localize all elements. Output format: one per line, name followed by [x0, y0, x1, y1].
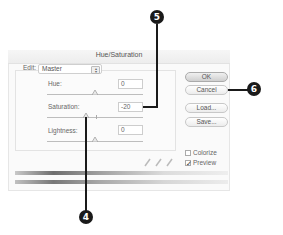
callout-5: 5: [150, 10, 164, 24]
dropdown-stepper-icon: ▴▾: [91, 66, 100, 74]
saturation-input[interactable]: -20: [118, 102, 143, 112]
dialog-title: Hue/Saturation: [8, 51, 230, 58]
callout-4: 4: [79, 210, 93, 224]
callout-6: 6: [247, 82, 261, 96]
hue-slider-thumb[interactable]: [92, 90, 98, 95]
hue-input[interactable]: 0: [118, 79, 143, 89]
colorize-label: Colorize: [193, 149, 217, 156]
eyedropper-icon[interactable]: [143, 153, 152, 163]
ok-button[interactable]: OK: [185, 72, 228, 82]
cancel-button[interactable]: Cancel: [185, 85, 228, 95]
lightness-label: Lightness:: [48, 127, 78, 134]
output-color-bar: [15, 180, 228, 184]
hue-label: Hue:: [48, 80, 62, 87]
callout-5-leader-h: [143, 106, 158, 108]
load-button[interactable]: Load...: [185, 103, 228, 113]
eyedropper-plus-icon[interactable]: [154, 153, 163, 163]
callout-5-leader-v: [156, 24, 158, 108]
lightness-slider-thumb[interactable]: [92, 137, 98, 142]
saturation-slider-track[interactable]: [47, 117, 143, 118]
preview-label: Preview: [193, 159, 216, 166]
save-button[interactable]: Save...: [185, 117, 228, 127]
preview-checkbox[interactable]: ✓: [185, 160, 191, 166]
colorize-checkbox[interactable]: [185, 150, 191, 156]
saturation-label: Saturation:: [48, 103, 79, 110]
saturation-center-tick: [96, 115, 97, 119]
edit-dropdown[interactable]: Master ▴▾: [38, 64, 102, 74]
callout-4-leader: [85, 117, 87, 211]
lightness-input[interactable]: 0: [118, 125, 143, 135]
checkmark-icon: ✓: [186, 160, 192, 167]
input-color-bar: [15, 171, 228, 175]
eyedropper-group: [143, 153, 176, 163]
eyedropper-minus-icon[interactable]: [165, 153, 174, 163]
edit-dropdown-value: Master: [42, 65, 62, 72]
callout-6-leader: [228, 89, 248, 91]
